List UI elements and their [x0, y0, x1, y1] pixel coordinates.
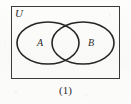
universal-set-label: U: [15, 8, 23, 19]
universal-set-rectangle: [12, 7, 120, 79]
set-b-label: B: [88, 38, 94, 48]
set-a-ellipse: [17, 22, 79, 64]
venn-diagram-figure: U A B (1): [0, 0, 131, 104]
set-a-label: A: [37, 38, 43, 48]
set-b-ellipse: [52, 22, 114, 64]
figure-caption: (1): [0, 85, 131, 96]
